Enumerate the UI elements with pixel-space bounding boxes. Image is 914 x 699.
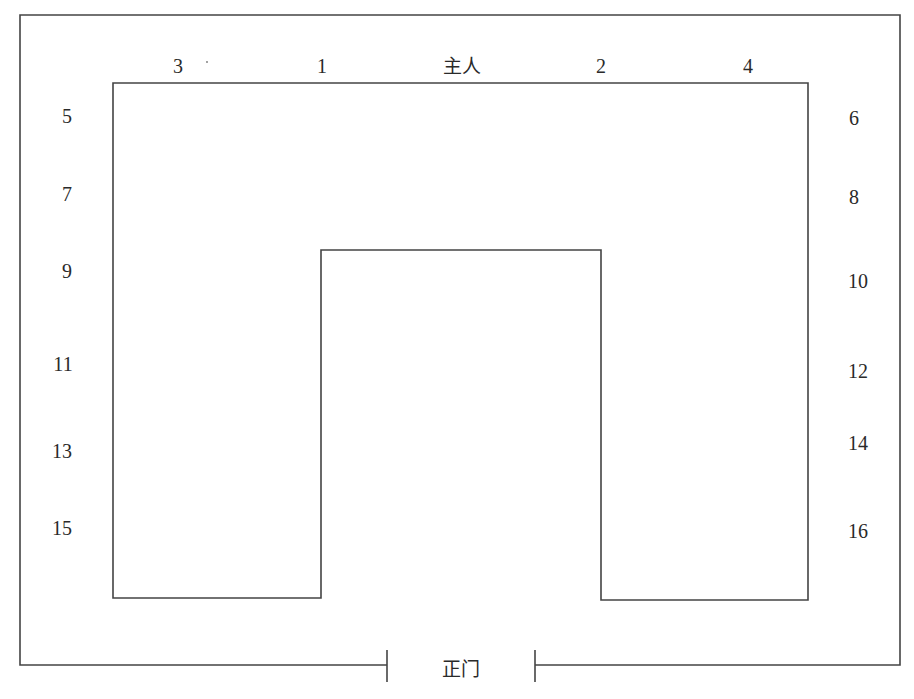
- seat-2: 2: [596, 56, 606, 76]
- room-wall: [20, 15, 900, 665]
- seat-9: 9: [62, 261, 72, 281]
- main-door-label: 正门: [442, 659, 480, 679]
- seat-13: 13: [52, 441, 72, 461]
- seat-14: 14: [848, 433, 868, 453]
- seat-15: 15: [52, 518, 72, 538]
- room-outline-diagram: [0, 0, 914, 699]
- seat-7: 7: [62, 184, 72, 204]
- speck: [206, 61, 208, 63]
- seat-3: 3: [173, 56, 183, 76]
- u-shaped-table: [113, 83, 808, 600]
- seat-4: 4: [743, 56, 753, 76]
- seat-12: 12: [848, 361, 868, 381]
- seat-10: 10: [848, 271, 868, 291]
- seat-1: 1: [317, 56, 327, 76]
- seat-8: 8: [849, 187, 859, 207]
- seat-6: 6: [849, 108, 859, 128]
- seat-5: 5: [62, 106, 72, 126]
- seat-host: 主人: [443, 56, 481, 76]
- seat-11: 11: [53, 354, 72, 374]
- seat-16: 16: [848, 521, 868, 541]
